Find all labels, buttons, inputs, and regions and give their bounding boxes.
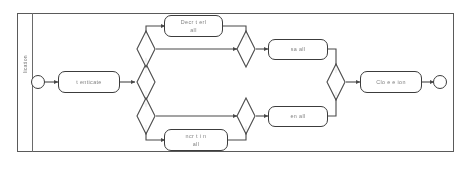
task-send-call[interactable]: en all <box>268 106 328 127</box>
diagram-canvas: lication <box>0 0 473 172</box>
gateway-split-lower[interactable] <box>137 98 155 134</box>
task-encrypt-recall-label-line2: all <box>168 140 224 148</box>
task-send-call-label: en all <box>272 112 324 120</box>
task-close-session-label: Clo e e ion <box>364 78 418 86</box>
task-decrypt-recall-label-line2: all <box>168 26 219 34</box>
task-close-session[interactable]: Clo e e ion <box>360 71 422 93</box>
task-save-call-label: sa all <box>272 45 324 53</box>
gateway-merge-upper[interactable] <box>237 31 255 67</box>
task-encrypt-recall-label-line1: ncr t i n <box>168 132 224 140</box>
gateway-merge-main[interactable] <box>327 64 345 100</box>
task-authenticate[interactable]: t enticate <box>58 71 120 93</box>
end-event[interactable] <box>433 75 447 89</box>
task-decrypt-recall[interactable]: Decr t erl all <box>164 15 223 37</box>
start-event[interactable] <box>31 75 45 89</box>
gateway-merge-lower[interactable] <box>237 98 255 134</box>
task-decrypt-recall-label-line1: Decr t erl <box>168 18 219 26</box>
gateway-split-upper[interactable] <box>137 31 155 67</box>
task-authenticate-label: t enticate <box>62 78 116 86</box>
task-encrypt-recall[interactable]: ncr t i n all <box>164 129 228 151</box>
gateway-split-main[interactable] <box>137 64 155 100</box>
task-save-call[interactable]: sa all <box>268 39 328 60</box>
